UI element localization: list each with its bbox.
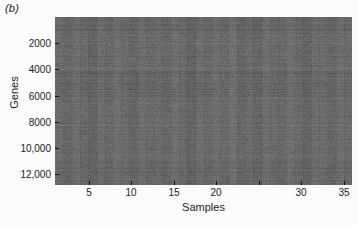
heatmap-image xyxy=(55,17,352,185)
x-tick-label: 35 xyxy=(338,187,349,198)
heatmap-plot-area xyxy=(55,17,352,185)
x-tick-mark xyxy=(174,181,175,185)
y-tick-label: 2000 xyxy=(29,38,51,49)
y-axis-title: Genes xyxy=(8,63,21,123)
figure-panel-b: (b) 51015203035 200040006000800010,00012… xyxy=(0,0,358,225)
x-tick-mark xyxy=(89,181,90,185)
y-tick-label: 6000 xyxy=(29,91,51,102)
x-tick-mark xyxy=(216,181,217,185)
y-tick-mark xyxy=(55,148,59,149)
x-tick-mark xyxy=(344,181,345,185)
x-tick-mark xyxy=(131,181,132,185)
y-tick-mark xyxy=(55,122,59,123)
y-tick-label: 10,000 xyxy=(20,143,51,154)
y-tick-label: 4000 xyxy=(29,64,51,75)
y-tick-mark xyxy=(55,174,59,175)
x-tick-mark xyxy=(301,181,302,185)
y-tick-mark xyxy=(55,96,59,97)
y-tick-mark xyxy=(55,69,59,70)
x-tick-label: 30 xyxy=(295,187,306,198)
y-tick-label: 12,000 xyxy=(20,169,51,180)
y-tick-label: 8000 xyxy=(29,117,51,128)
x-tick-label: 10 xyxy=(125,187,136,198)
x-tick-label: 5 xyxy=(86,187,92,198)
x-axis-title: Samples xyxy=(55,201,352,214)
x-tick-label: 20 xyxy=(210,187,221,198)
x-tick-label: 15 xyxy=(168,187,179,198)
y-tick-mark xyxy=(55,43,59,44)
x-tick-mark xyxy=(259,181,260,185)
